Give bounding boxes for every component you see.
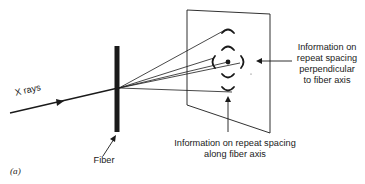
- fiber: [115, 46, 120, 132]
- along-info-line: Information on repeat spacing: [160, 138, 310, 149]
- scattered-ray: [119, 58, 214, 88]
- central-spot: [226, 60, 231, 65]
- scattered-ray: [119, 30, 225, 88]
- layer-line-arc-top: [222, 30, 234, 34]
- speck: [250, 73, 251, 74]
- scattered-ray: [119, 62, 228, 88]
- diffraction-pattern: [213, 30, 252, 91]
- layer-line-arc-lower: [222, 74, 234, 78]
- fiber-label: Fiber: [84, 155, 124, 166]
- arrow-left-icon: [256, 58, 262, 64]
- scattered-ray: [119, 88, 232, 92]
- layer-line-arc-bottom: [222, 87, 234, 91]
- xray-direction-arrow-icon: [56, 99, 64, 106]
- along-info-line: along fiber axis: [160, 149, 310, 160]
- arrow-up-icon: [225, 96, 231, 102]
- equatorial-arc-right: [241, 56, 244, 68]
- perpendicular-info-line: repeat spacing: [289, 53, 365, 64]
- equatorial-arc-left: [213, 56, 216, 68]
- perpendicular-info-line: Information on: [289, 42, 365, 53]
- perpendicular-info-line: perpendicular: [289, 64, 365, 75]
- scattered-rays: [119, 30, 240, 92]
- scattered-ray: [119, 63, 240, 88]
- perpendicular-info-label: Information on repeat spacing perpendicu…: [289, 42, 365, 86]
- perpendicular-info-line: to fiber axis: [289, 75, 365, 86]
- layer-line-arc-upper: [222, 47, 234, 51]
- along-info-label: Information on repeat spacing along fibe…: [160, 138, 310, 160]
- panel-label: (a): [10, 166, 21, 177]
